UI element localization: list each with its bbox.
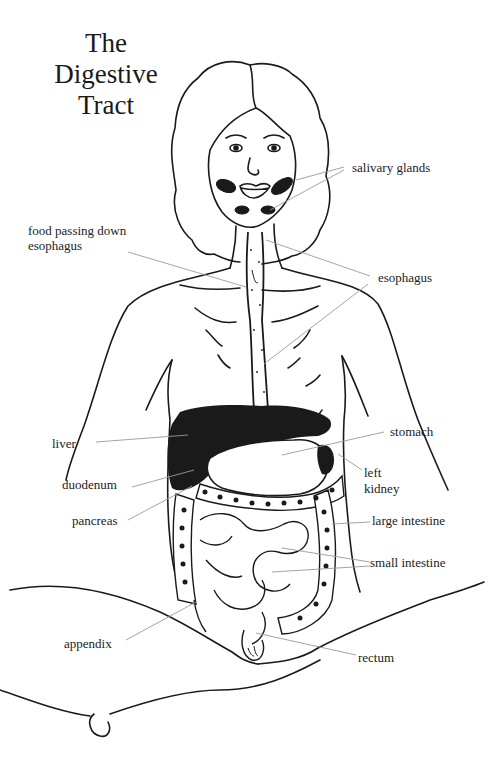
large-intestine-descending [278, 490, 335, 634]
label-appendix: appendix [64, 636, 112, 651]
hand [90, 714, 110, 736]
label-rectum: rectum [358, 650, 394, 665]
label-liver: liver [52, 436, 76, 451]
leader-esophagus-1 [266, 240, 370, 276]
hair-part [250, 65, 256, 108]
left-salivary-gland [215, 177, 238, 195]
label-food-passing-line-2: esophagus [28, 238, 82, 253]
lips [240, 184, 270, 198]
label-esophagus: esophagus [378, 270, 432, 285]
label-left-kidney-line-1: left [364, 465, 381, 480]
label-duodenum: duodenum [62, 477, 117, 492]
leader-large-intestine [332, 522, 370, 524]
digestive-tract-illustration [0, 0, 494, 769]
hair-outline [172, 62, 330, 264]
label-large-intestine: large intestine [372, 513, 445, 528]
label-pancreas: pancreas [72, 513, 117, 528]
label-left-kidney-line-2: kidney [364, 481, 399, 496]
leader-food-passing [128, 252, 246, 287]
right-salivary-gland [269, 174, 296, 198]
leader-appendix [126, 602, 196, 640]
leader-esophagus-2 [264, 284, 368, 364]
label-salivary-glands: salivary glands [352, 160, 430, 175]
face-outline [209, 108, 296, 227]
left-leg [10, 586, 258, 664]
right-torso-side [342, 356, 360, 592]
appendix [194, 600, 206, 632]
esophagus-tube [247, 232, 268, 410]
leader-left-kidney [338, 454, 362, 470]
lower-leg [0, 660, 320, 716]
label-small-intestine: small intestine [370, 555, 445, 570]
label-stomach: stomach [390, 424, 433, 439]
label-food-passing-line-1: food passing down [28, 223, 126, 238]
nose [248, 158, 259, 175]
